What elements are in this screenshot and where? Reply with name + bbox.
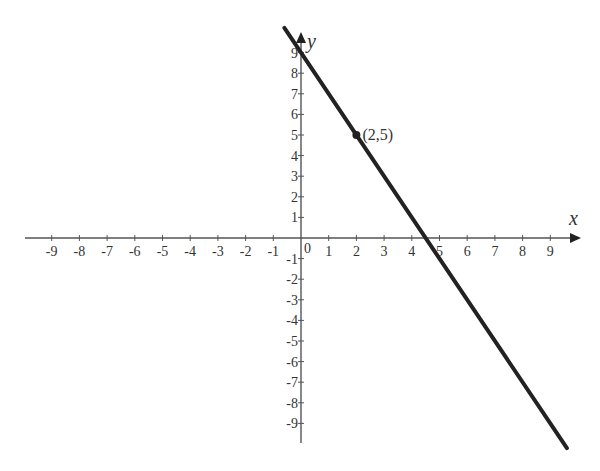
y-tick-label: -5 — [286, 334, 298, 349]
x-tick-label: -3 — [212, 244, 224, 259]
x-tick-label: -9 — [46, 244, 58, 259]
x-tick-label: 1 — [325, 244, 332, 259]
x-tick-label: -7 — [101, 244, 113, 259]
y-tick-label: -8 — [286, 396, 298, 411]
y-axis-arrow-icon — [296, 32, 306, 43]
origin-label: 0 — [304, 241, 311, 256]
x-tick-label: 2 — [353, 244, 360, 259]
x-axis-label: x — [568, 207, 578, 229]
y-tick-label: -6 — [286, 355, 298, 370]
point-label: (2,5) — [362, 126, 393, 144]
y-tick-label: -1 — [286, 252, 298, 267]
x-tick-label: 3 — [381, 244, 388, 259]
x-tick-label: -6 — [129, 244, 141, 259]
coordinate-plane: -9-8-7-6-5-4-3-2-1123456789 -9-8-7-6-5-4… — [0, 0, 600, 471]
y-axis-label: y — [305, 30, 316, 53]
y-tick-label: 2 — [291, 190, 298, 205]
x-axis-arrow-icon — [570, 233, 581, 243]
x-tick-label: 4 — [408, 244, 415, 259]
y-tick-label: 6 — [291, 107, 298, 122]
x-tick-label: 8 — [519, 244, 526, 259]
x-tick-label: -5 — [157, 244, 169, 259]
x-tick-label: 6 — [464, 244, 471, 259]
y-tick-label: -7 — [286, 375, 298, 390]
x-tick-label: -8 — [74, 244, 86, 259]
point-marker — [352, 131, 360, 139]
y-tick-label: 5 — [291, 128, 298, 143]
y-tick-label: 8 — [291, 66, 298, 81]
y-tick-label: 7 — [291, 87, 298, 102]
y-tick-label: 1 — [291, 210, 298, 225]
y-tick-label: 3 — [291, 169, 298, 184]
x-tick-label: -2 — [240, 244, 252, 259]
x-tick-label: 7 — [491, 244, 498, 259]
y-tick-label: -3 — [286, 293, 298, 308]
x-tick-label: -4 — [184, 244, 196, 259]
x-tick-label: 9 — [547, 244, 554, 259]
y-tick-label: -2 — [286, 272, 298, 287]
y-tick-label: -4 — [286, 313, 298, 328]
y-tick-label: -9 — [286, 416, 298, 431]
y-tick-label: 4 — [291, 149, 298, 164]
x-tick-label: -1 — [267, 244, 279, 259]
